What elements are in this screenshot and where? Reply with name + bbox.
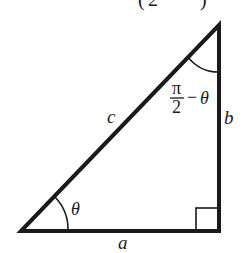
hypotenuse-label-c: c: [107, 106, 116, 127]
theta-symbol: θ: [200, 88, 209, 108]
pi-numerator: π: [172, 78, 181, 98]
fragment-digit: 2: [148, 0, 158, 10]
two-denominator: 2: [172, 97, 181, 117]
right-triangle-diagram: ( 2 ) c b a θ π 2 − θ: [0, 0, 245, 253]
theta-label: θ: [71, 199, 80, 219]
complement-angle-arc: [188, 57, 219, 72]
right-angle-marker: [196, 208, 219, 231]
top-expression-fragment: ( 2 ): [138, 0, 207, 11]
right-paren: ): [200, 0, 207, 11]
base-label-a: a: [118, 232, 128, 253]
side-label-b: b: [224, 107, 234, 128]
complement-angle-label: π 2 − θ: [170, 78, 209, 117]
theta-angle-arc: [55, 197, 68, 231]
triangle-shape: [21, 25, 219, 231]
minus-sign: −: [187, 87, 197, 107]
left-paren: (: [138, 0, 145, 11]
